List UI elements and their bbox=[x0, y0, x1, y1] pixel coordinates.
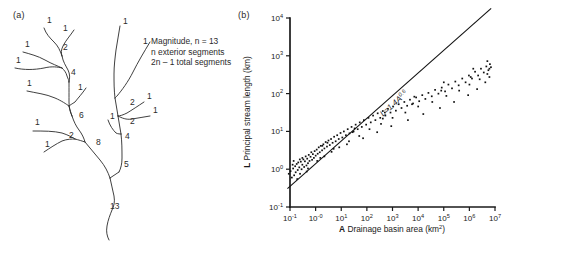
scatter-point bbox=[338, 146, 340, 148]
scatter-point bbox=[312, 153, 314, 155]
scatter-point bbox=[293, 174, 295, 176]
x-tick-label: 104 bbox=[412, 213, 424, 223]
scatter-point bbox=[295, 171, 297, 173]
scatter-point bbox=[361, 126, 363, 128]
scatter-point bbox=[468, 75, 470, 77]
scatter-point bbox=[324, 148, 326, 150]
scatter-point bbox=[372, 115, 374, 117]
scatter-point bbox=[444, 91, 446, 93]
scatter-point bbox=[311, 159, 313, 161]
drainage-area-length-plot: 10410310210110010-1 10-110-0101102103104… bbox=[290, 0, 576, 255]
magnitude-label: 1 bbox=[147, 91, 152, 101]
scatter-point bbox=[467, 94, 469, 96]
magnitude-label: 8 bbox=[96, 137, 101, 147]
scatter-point bbox=[359, 122, 361, 124]
magnitude-label: 1 bbox=[27, 78, 32, 88]
scatter-point bbox=[348, 140, 350, 142]
magnitude-label: 6 bbox=[79, 110, 84, 120]
scatter-point bbox=[310, 156, 312, 158]
scatter-point bbox=[380, 123, 382, 125]
magnitude-label: 1 bbox=[47, 15, 52, 25]
scatter-point bbox=[415, 97, 417, 99]
scatter-point bbox=[489, 63, 491, 65]
scatter-point bbox=[440, 90, 442, 92]
scatter-point bbox=[299, 173, 301, 175]
magnitude-label: 1 bbox=[143, 36, 148, 46]
scatter-point bbox=[308, 154, 310, 156]
scatter-point bbox=[376, 131, 378, 133]
magnitude-label: 5 bbox=[124, 159, 129, 169]
panel-a-label: (a) bbox=[13, 10, 25, 20]
scatter-point bbox=[453, 101, 455, 103]
magnitude-label: 1 bbox=[45, 139, 50, 149]
scatter-point bbox=[401, 107, 403, 109]
scatter-point bbox=[483, 72, 485, 74]
scatter-point bbox=[303, 166, 305, 168]
y-axis-title-text: Principal stream length (km) bbox=[242, 56, 252, 160]
x-tick-label: 106 bbox=[463, 213, 475, 223]
panel-b-label: (b) bbox=[238, 10, 250, 20]
scatter-point bbox=[303, 159, 305, 161]
scatter-point bbox=[441, 87, 443, 89]
scatter-point bbox=[390, 125, 392, 127]
scatter-point bbox=[328, 140, 330, 142]
scatter-point bbox=[346, 143, 348, 145]
scatter-point bbox=[362, 137, 364, 139]
scatter-point bbox=[314, 150, 316, 152]
magnitude-label: 4 bbox=[125, 131, 130, 141]
magnitude-label: 1 bbox=[63, 23, 68, 33]
scatter-point bbox=[292, 164, 294, 166]
scatter-point bbox=[370, 122, 372, 124]
scatter-point bbox=[485, 66, 487, 68]
scatter-point bbox=[336, 134, 338, 136]
scatter-point bbox=[332, 142, 334, 144]
scatter-point bbox=[318, 146, 320, 148]
scatter-point bbox=[477, 75, 479, 77]
magnitude-label: 4 bbox=[71, 67, 76, 77]
scatter-point bbox=[454, 81, 456, 83]
scatter-point bbox=[474, 71, 476, 73]
scatter-point bbox=[323, 143, 325, 145]
scatter-point bbox=[428, 92, 430, 94]
regression-line bbox=[287, 8, 491, 188]
scatter-point bbox=[418, 100, 420, 102]
scatter-point bbox=[395, 110, 397, 112]
scatter-point bbox=[315, 155, 317, 157]
scatter-point bbox=[488, 69, 490, 71]
scatter-point bbox=[438, 93, 440, 95]
scatter-point bbox=[306, 165, 308, 167]
scatter-point bbox=[291, 177, 293, 179]
scatter-point bbox=[484, 81, 486, 83]
scatter-point bbox=[335, 140, 337, 142]
scatter-point bbox=[294, 165, 296, 167]
annotation-line-2: n exterior segments bbox=[151, 47, 231, 58]
scatter-point bbox=[302, 164, 304, 166]
scatter-point bbox=[431, 101, 433, 103]
scatter-point bbox=[297, 169, 299, 171]
scatter-point bbox=[461, 78, 463, 80]
scatter-point bbox=[313, 157, 315, 159]
scatter-point bbox=[446, 95, 448, 97]
scatter-point bbox=[425, 98, 427, 100]
scatter-point bbox=[355, 124, 357, 126]
x-tick-label: 103 bbox=[386, 213, 398, 223]
scatter-point bbox=[489, 68, 491, 70]
scatter-point bbox=[480, 68, 482, 70]
scatter-point bbox=[470, 76, 472, 78]
x-tick-label: 107 bbox=[489, 213, 501, 223]
scatter-point bbox=[451, 88, 453, 90]
scatter-point bbox=[288, 173, 290, 175]
scatter-point bbox=[411, 103, 413, 105]
scatter-point bbox=[406, 105, 408, 107]
scatter-point bbox=[431, 95, 433, 97]
scatter-point bbox=[320, 145, 322, 147]
scatter-point bbox=[351, 126, 353, 128]
magnitude-label: 1 bbox=[153, 105, 158, 115]
scatter-point bbox=[405, 112, 407, 114]
x-axis-title-tail: ) bbox=[442, 224, 445, 234]
x-tick-label: 10-0 bbox=[309, 213, 323, 223]
scatter-point bbox=[403, 101, 405, 103]
scatter-point bbox=[321, 150, 323, 152]
axes bbox=[290, 18, 495, 207]
scatter-point bbox=[299, 159, 301, 161]
